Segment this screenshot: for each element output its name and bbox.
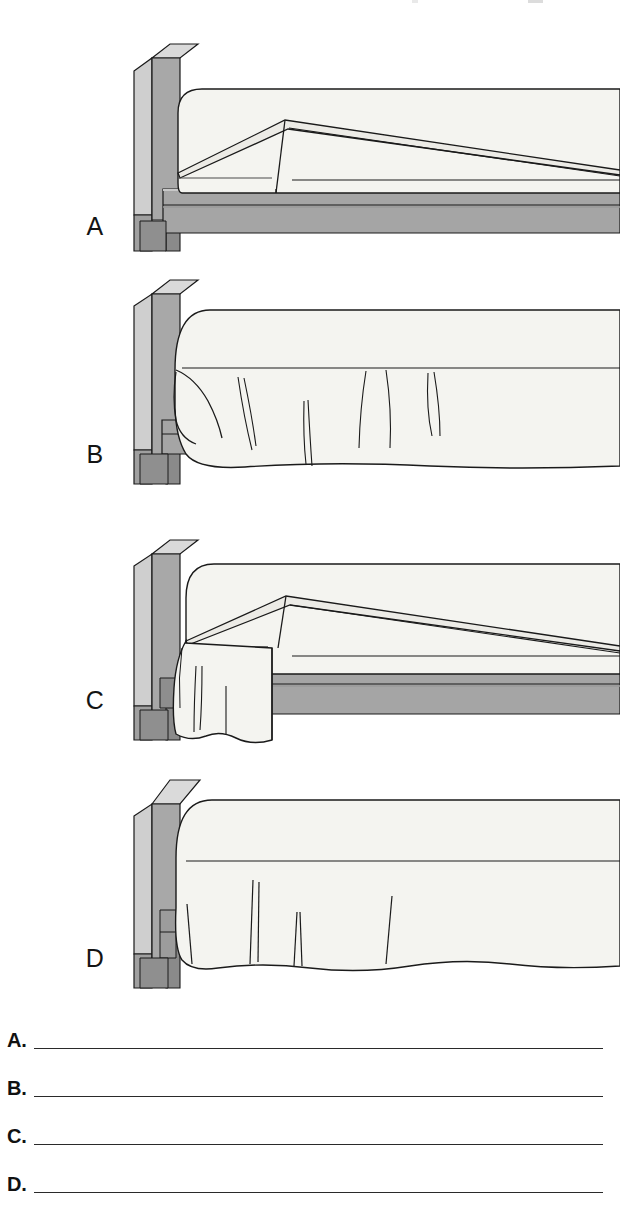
panel-letter-d: D [72,946,118,971]
answer-label-c: C. [0,1126,34,1150]
answer-row-c: C. [0,1104,620,1150]
figure-panel-d: D [0,758,620,1008]
answer-label-b: B. [0,1078,34,1102]
panel-letter-a: A [72,214,118,239]
page-top-bleed [0,0,620,6]
answer-label-a: A. [0,1030,34,1054]
bleed-mark-right [528,0,543,3]
answer-row-a: A. [0,1008,620,1054]
answer-label-d: D. [0,1174,34,1198]
panel-letter-b: B [72,442,118,467]
bleed-mark-left [412,0,418,3]
figure-panel-c: C [0,508,620,758]
figure-panel-a: A [0,8,620,258]
bed-illustration-b [0,258,620,508]
panel-letter-c: C [72,688,118,713]
answer-blank-d[interactable] [34,1192,603,1193]
answer-lines-section: A. B. C. D. [0,1006,620,1206]
figure-panel-b: B [0,258,620,508]
answer-blank-a[interactable] [34,1048,603,1049]
worksheet-page: A [0,0,620,1214]
answer-blank-b[interactable] [34,1096,603,1097]
answer-row-d: D. [0,1152,620,1198]
bed-illustration-c [0,508,620,758]
answer-row-b: B. [0,1056,620,1102]
answer-blank-c[interactable] [34,1144,603,1145]
